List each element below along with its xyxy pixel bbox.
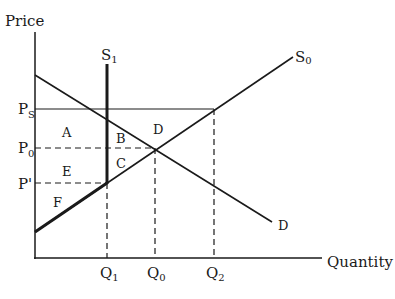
region-a-label: A	[61, 125, 72, 140]
s1-label: S1	[101, 46, 118, 65]
ps-label: PS	[18, 100, 35, 120]
demand-label: D	[278, 218, 288, 233]
region-d-label: D	[153, 122, 163, 137]
q0-label: Q0	[147, 264, 166, 283]
x-axis-label: Quantity	[327, 253, 393, 271]
q1-label: Q1	[100, 264, 119, 283]
p-prime-label: P'	[18, 175, 32, 193]
region-e-label: E	[62, 164, 72, 179]
region-f-label: F	[53, 195, 62, 210]
s0-label: S0	[295, 48, 312, 66]
p0-label: P0	[18, 139, 34, 159]
region-c-label: C	[116, 156, 126, 171]
region-b-label: B	[116, 131, 126, 146]
y-axis-label: Price	[5, 12, 44, 30]
supply-curve-s1-lower	[35, 183, 107, 232]
supply-demand-diagram: Price Quantity S1 S0 D PS P0 P' Q1 Q0 Q2…	[0, 0, 395, 299]
q2-label: Q2	[206, 264, 225, 283]
